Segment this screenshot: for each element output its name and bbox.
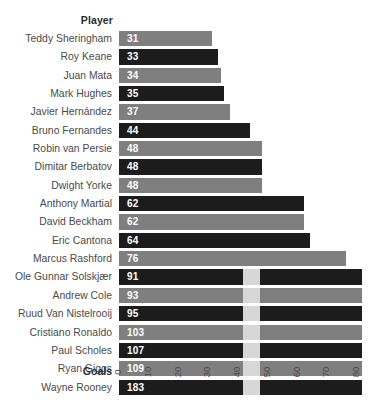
bar-value-label: 33 <box>127 49 139 64</box>
bar-value-label: 44 <box>127 123 139 138</box>
goals-bar[interactable] <box>119 288 362 303</box>
goals-bar[interactable] <box>119 159 262 174</box>
bar-track: 33 <box>119 49 218 64</box>
bar-value-label: 76 <box>127 251 139 266</box>
chart-row: Roy Keane33 <box>0 49 379 67</box>
chart-row: Dwight Yorke48 <box>0 178 379 196</box>
chart-row: Ruud Van Nistelrooij95 <box>0 306 379 324</box>
x-axis-tick: 30 <box>201 365 212 379</box>
bar-value-label: 93 <box>127 288 139 303</box>
goals-bar[interactable] <box>119 141 262 156</box>
bar-value-label: 107 <box>127 343 144 358</box>
bar-overflow-shade <box>243 269 260 284</box>
chart-row: Dimitar Berbatov48 <box>0 159 379 177</box>
bar-track: 64 <box>119 233 310 248</box>
chart-row: Cristiano Ronaldo103 <box>0 325 379 343</box>
goals-bar[interactable] <box>119 178 262 193</box>
player-name-label: Javier Hernández <box>0 104 112 119</box>
bar-track: 48 <box>119 141 262 156</box>
x-axis-tick: 40 <box>231 365 242 379</box>
bar-value-label: 35 <box>127 86 139 101</box>
player-name-label: Ruud Van Nistelrooij <box>0 306 112 321</box>
player-name-label: Cristiano Ronaldo <box>0 325 112 340</box>
goals-bar[interactable] <box>119 325 362 340</box>
bar-track: 95 <box>119 306 362 321</box>
bar-overflow-shade <box>243 288 260 303</box>
player-name-label: Eric Cantona <box>0 233 112 248</box>
chart-plot-area: Teddy Sheringham31Roy Keane33Juan Mata34… <box>0 31 379 362</box>
goals-bar[interactable] <box>119 269 362 284</box>
player-name-label: Andrew Cole <box>0 288 112 303</box>
chart-row: Bruno Fernandes44 <box>0 123 379 141</box>
goals-bar[interactable] <box>119 306 362 321</box>
chart-row: Javier Hernández37 <box>0 104 379 122</box>
x-axis-tick: 0 <box>112 365 123 379</box>
player-name-label: Juan Mata <box>0 68 112 83</box>
bar-track: 91 <box>119 269 362 284</box>
player-name-label: Robin van Persie <box>0 141 112 156</box>
chart-row: Ole Gunnar Solskjær91 <box>0 269 379 287</box>
goals-bar[interactable] <box>119 196 304 211</box>
goals-bar[interactable] <box>119 233 310 248</box>
bar-value-label: 64 <box>127 233 139 248</box>
player-name-label: Mark Hughes <box>0 86 112 101</box>
chart-row: Anthony Martial62 <box>0 196 379 214</box>
bar-track: 31 <box>119 31 212 46</box>
player-name-label: Dimitar Berbatov <box>0 159 112 174</box>
bar-track: 48 <box>119 178 262 193</box>
bar-value-label: 91 <box>127 269 139 284</box>
bar-track: 48 <box>119 159 262 174</box>
player-name-label: Dwight Yorke <box>0 178 112 193</box>
chart-row: Eric Cantona64 <box>0 233 379 251</box>
player-name-label: Ole Gunnar Solskjær <box>0 269 112 284</box>
bar-track: 37 <box>119 104 230 119</box>
x-axis: Goals 01020304050607080 <box>0 365 379 411</box>
bar-track: 103 <box>119 325 362 340</box>
goals-bar-chart: Player Teddy Sheringham31Roy Keane33Juan… <box>0 0 379 411</box>
bar-overflow-shade <box>243 325 260 340</box>
player-name-label: Roy Keane <box>0 49 112 64</box>
goals-bar[interactable] <box>119 251 346 266</box>
bar-track: 62 <box>119 214 304 229</box>
chart-row: David Beckham62 <box>0 214 379 232</box>
chart-row: Paul Scholes107 <box>0 343 379 361</box>
player-name-label: Anthony Martial <box>0 196 112 211</box>
x-axis-tick: 80 <box>350 365 361 379</box>
bar-track: 62 <box>119 196 304 211</box>
player-name-label: Paul Scholes <box>0 343 112 358</box>
bar-value-label: 48 <box>127 141 139 156</box>
player-name-label: Marcus Rashford <box>0 251 112 266</box>
player-name-label: Bruno Fernandes <box>0 123 112 138</box>
bar-track: 35 <box>119 86 224 101</box>
bar-value-label: 31 <box>127 31 139 46</box>
x-axis-title: Goals <box>0 365 112 378</box>
bar-track: 76 <box>119 251 346 266</box>
bar-value-label: 37 <box>127 104 139 119</box>
chart-row: Mark Hughes35 <box>0 86 379 104</box>
chart-row: Marcus Rashford76 <box>0 251 379 269</box>
bar-track: 93 <box>119 288 362 303</box>
bar-track: 34 <box>119 68 221 83</box>
bar-track: 44 <box>119 123 250 138</box>
chart-row: Teddy Sheringham31 <box>0 31 379 49</box>
player-column-header: Player <box>0 14 113 26</box>
x-axis-tick: 70 <box>320 365 331 379</box>
bar-value-label: 95 <box>127 306 139 321</box>
bar-overflow-shade <box>243 343 260 358</box>
bar-value-label: 34 <box>127 68 139 83</box>
x-axis-tick: 20 <box>172 365 183 379</box>
bar-overflow-shade <box>243 306 260 321</box>
bar-value-label: 62 <box>127 196 139 211</box>
bar-value-label: 48 <box>127 178 139 193</box>
bar-value-label: 103 <box>127 325 144 340</box>
chart-row: Andrew Cole93 <box>0 288 379 306</box>
goals-bar[interactable] <box>119 343 362 358</box>
chart-row: Juan Mata34 <box>0 68 379 86</box>
goals-bar[interactable] <box>119 214 304 229</box>
x-axis-tick: 60 <box>291 365 302 379</box>
bar-value-label: 62 <box>127 214 139 229</box>
player-name-label: David Beckham <box>0 214 112 229</box>
player-name-label: Teddy Sheringham <box>0 31 112 46</box>
x-axis-tick: 50 <box>261 365 272 379</box>
chart-row: Robin van Persie48 <box>0 141 379 159</box>
